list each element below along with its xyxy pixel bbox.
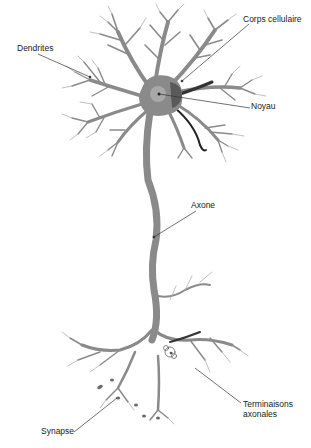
synaptic-bouton <box>134 404 138 407</box>
leader-dot-axone <box>153 236 155 238</box>
dendrite-trunk <box>118 110 148 142</box>
dendrite-trunk <box>155 22 168 84</box>
terminal-cluster <box>165 347 175 357</box>
synaptic-bouton <box>97 384 104 390</box>
label-terminaisons-line1: Terminaisons <box>243 399 293 409</box>
leader-line-terminaisons <box>195 368 241 403</box>
leader-dot-corps-cellulaire <box>181 80 183 82</box>
terminal-branch <box>158 356 159 410</box>
label-terminaisons-line2: axonales <box>243 409 293 419</box>
terminal-cluster-center <box>170 352 172 354</box>
terminal-cluster <box>172 354 177 359</box>
label-noyau: Noyau <box>251 101 276 111</box>
dendrite-trunk <box>168 110 184 148</box>
terminal-branch <box>82 330 152 350</box>
leader-line-synapse <box>74 398 117 432</box>
terminal-branch <box>154 284 210 296</box>
terminal-branch <box>118 352 135 388</box>
dendrite-trunk <box>118 32 150 88</box>
label-terminaisons-axonales: Terminaisons axonales <box>243 399 293 419</box>
label-axone: Axone <box>191 200 215 210</box>
label-corps-cellulaire: Corps cellulaire <box>243 14 302 24</box>
axon <box>146 112 157 340</box>
dendrite-branch <box>178 148 192 158</box>
neuron-diagram <box>0 0 311 448</box>
synaptic-bouton <box>110 379 114 382</box>
terminal-cluster <box>164 346 169 351</box>
axon-terminals <box>62 272 248 424</box>
leader-dot-dendrites <box>89 76 91 78</box>
label-dendrites: Dendrites <box>17 43 53 53</box>
dendrite-trunk <box>88 104 142 122</box>
synaptic-bouton <box>156 417 160 420</box>
leader-line-dendrites <box>38 54 90 77</box>
dendrite-trunk <box>90 80 142 96</box>
label-synapse: Synapse <box>41 426 74 436</box>
synaptic-bouton <box>142 415 146 418</box>
